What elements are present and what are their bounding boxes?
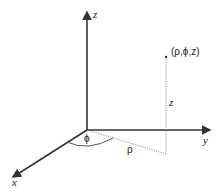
cylindrical-coordinates-diagram: z y x (ρ,ϕ,z) z ρ ϕ bbox=[0, 0, 217, 193]
point-label: (ρ,ϕ,z) bbox=[171, 46, 200, 57]
x-axis-label: x bbox=[11, 176, 17, 188]
x-axis bbox=[13, 130, 87, 177]
height-label: z bbox=[168, 96, 174, 108]
rho-label: ρ bbox=[127, 144, 133, 155]
phi-label: ϕ bbox=[84, 133, 90, 144]
point-marker bbox=[165, 56, 167, 58]
z-axis-label: z bbox=[92, 8, 98, 20]
y-axis-label: y bbox=[202, 134, 208, 146]
